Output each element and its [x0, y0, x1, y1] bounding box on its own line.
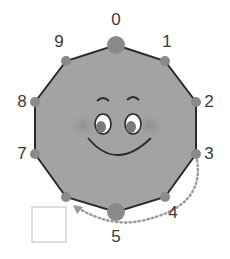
answer-box[interactable]: [32, 207, 66, 242]
vertex-label-7: 7: [17, 144, 26, 163]
vertex-dot-8: [30, 97, 40, 107]
vertex-label-3: 3: [204, 144, 213, 163]
vertex-dot-6: [61, 192, 71, 202]
right-pupil: [126, 121, 136, 133]
vertex-label-1: 1: [162, 32, 171, 51]
vertex-dot-3: [191, 149, 201, 159]
vertex-label-9: 9: [54, 32, 63, 51]
vertex-dot-7: [30, 149, 40, 159]
vertex-dot-4: [160, 192, 170, 202]
vertex-dot-0: [107, 36, 125, 54]
vertex-label-2: 2: [204, 92, 213, 111]
left-cheek: [67, 112, 99, 140]
vertex-dot-2: [191, 97, 201, 107]
vertex-label-5: 5: [111, 227, 120, 246]
vertex-dot-5: [107, 203, 125, 221]
decagon-diagram: 012345789: [0, 0, 230, 259]
vertex-label-8: 8: [17, 92, 26, 111]
left-pupil: [96, 121, 106, 133]
decagon-shape: [35, 45, 196, 212]
vertex-dot-1: [160, 56, 170, 66]
vertex-label-0: 0: [111, 10, 120, 29]
vertex-dot-9: [61, 56, 71, 66]
vertex-label-4: 4: [168, 203, 177, 222]
